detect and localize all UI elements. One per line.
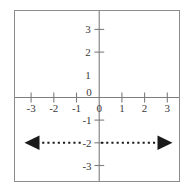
- y-tick-label-3: 3: [85, 24, 91, 35]
- x-tick-label-2: 2: [142, 103, 148, 114]
- y-tick-label-neg2: -2: [81, 137, 92, 148]
- y-tick-label-2: 2: [85, 47, 91, 58]
- x-tick-label-neg3: -3: [27, 103, 36, 114]
- graph-figure: 3 2 1 0 -1 -2 -3 -3 -2 -1 0 1 2 3: [0, 0, 189, 195]
- x-tick-label-3: 3: [165, 103, 171, 114]
- x-tick-label-neg2: -2: [49, 103, 58, 114]
- x-tick-label-neg1: -1: [72, 103, 81, 114]
- right-arrowhead-icon: [158, 136, 173, 150]
- y-tick-label-neg1: -1: [82, 115, 91, 126]
- y-tick-label-0: 0: [86, 86, 92, 97]
- x-tick-label-1: 1: [119, 103, 125, 114]
- coordinate-plane-graphic: [0, 0, 189, 195]
- y-tick-label-neg3: -3: [82, 160, 91, 171]
- x-tick-label-0: 0: [96, 103, 102, 114]
- y-tick-label-1: 1: [85, 69, 91, 80]
- left-arrowhead-icon: [25, 136, 40, 150]
